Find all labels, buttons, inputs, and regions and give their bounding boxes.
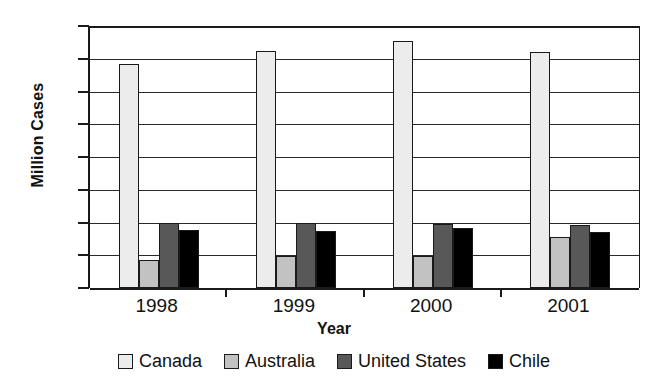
legend-swatch-icon-australia <box>224 354 239 369</box>
category-separator-2000 <box>363 288 365 297</box>
legend-label: Canada <box>139 352 202 370</box>
legend-label: United States <box>358 352 466 370</box>
bar-united-states-2000 <box>433 224 453 288</box>
x-tick-label-2000: 2000 <box>371 295 491 317</box>
bar-chile-2001 <box>590 232 610 288</box>
bar-canada-1999 <box>256 51 276 288</box>
legend-swatch-icon-chile <box>488 354 503 369</box>
plot-area <box>88 26 640 288</box>
category-separator-1999 <box>225 288 227 297</box>
gridline-0 <box>90 288 639 290</box>
legend-item-australia[interactable]: Australia <box>224 352 315 370</box>
bar-chile-2000 <box>453 228 473 288</box>
x-tick-label-2001: 2001 <box>508 295 628 317</box>
x-tick-label-1999: 1999 <box>234 295 354 317</box>
bar-chile-1998 <box>179 230 199 288</box>
bar-australia-1999 <box>276 256 296 288</box>
x-tick-label-1998: 1998 <box>97 295 217 317</box>
legend-label: Chile <box>509 352 550 370</box>
bar-chart-figure: Million Cases 012345678 1998199920002001… <box>0 0 668 392</box>
bar-chile-1999 <box>316 231 336 288</box>
legend-item-canada[interactable]: Canada <box>118 352 202 370</box>
y-axis-title: Million Cases <box>29 55 47 215</box>
bar-australia-2001 <box>550 237 570 288</box>
x-axis-title: Year <box>0 320 668 338</box>
bar-canada-2000 <box>393 41 413 288</box>
chart-legend: CanadaAustraliaUnited StatesChile <box>0 352 668 370</box>
legend-item-united-states[interactable]: United States <box>337 352 466 370</box>
bar-united-states-1998 <box>159 223 179 289</box>
legend-swatch-icon-canada <box>118 354 133 369</box>
bar-australia-1998 <box>139 260 159 288</box>
bar-series-layer <box>90 26 639 288</box>
bar-united-states-1999 <box>296 223 316 289</box>
bar-united-states-2001 <box>570 225 590 288</box>
bar-canada-1998 <box>119 64 139 288</box>
bar-australia-2000 <box>413 256 433 288</box>
legend-swatch-icon-united-states <box>337 354 352 369</box>
legend-label: Australia <box>245 352 315 370</box>
legend-item-chile[interactable]: Chile <box>488 352 550 370</box>
bar-canada-2001 <box>530 52 550 288</box>
category-separator-2001 <box>500 288 502 297</box>
